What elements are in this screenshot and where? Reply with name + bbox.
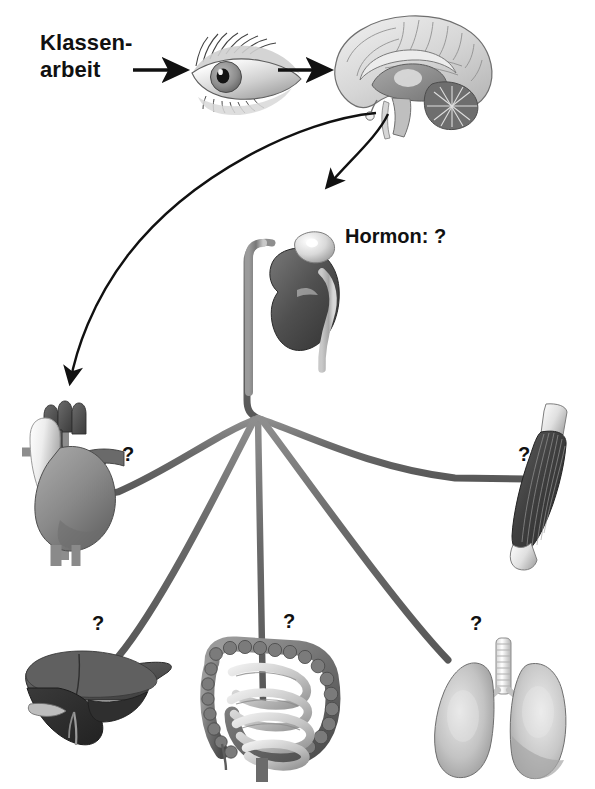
arrow-brain-to-kidney xyxy=(327,114,388,187)
stimulus-label: Klassen- arbeit xyxy=(40,30,133,84)
arrow-brain-to-heart xyxy=(70,113,376,383)
hormone-label: Hormon: ? xyxy=(345,224,446,248)
question-mark-gut: ? xyxy=(283,610,295,633)
question-mark-lung: ? xyxy=(470,612,482,635)
connector-layer xyxy=(0,0,595,789)
question-mark-muscle: ? xyxy=(518,443,530,466)
question-mark-liver: ? xyxy=(92,612,104,635)
question-mark-heart: ? xyxy=(122,443,134,466)
diagram-canvas: Klassen- arbeit Hormon: ? ? ? ? ? ? xyxy=(0,0,595,789)
